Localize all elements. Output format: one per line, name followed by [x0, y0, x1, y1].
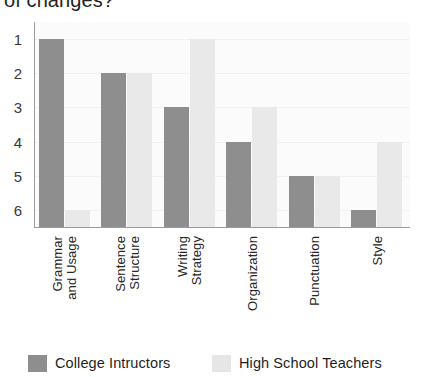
y-axis-tick-3: 3 [6, 100, 30, 115]
y-axis-tick-6: 6 [6, 202, 30, 217]
bar-group [289, 22, 340, 227]
bar[interactable] [39, 39, 64, 227]
bar-group [226, 22, 277, 227]
bar-group [39, 22, 90, 227]
x-axis-label-text: Grammar and Usage [51, 236, 79, 328]
y-axis-tick-1: 1 [6, 32, 30, 47]
y-axis-tick-2: 2 [6, 66, 30, 81]
x-axis-label-text: Punctuation [308, 236, 322, 328]
x-axis-label-text: Organization [246, 236, 260, 328]
x-axis-label-text: Sentence Structure [114, 236, 142, 328]
x-axis-label: Style [332, 236, 421, 328]
x-axis-category-labels: Grammar and UsageSentence StructureWriti… [0, 236, 421, 328]
bar[interactable] [101, 73, 126, 227]
legend-entry[interactable]: College Intructors [28, 352, 170, 374]
bar[interactable] [164, 107, 189, 227]
caption-text: of changes? [0, 0, 421, 13]
bar[interactable] [226, 142, 251, 227]
bar[interactable] [127, 73, 152, 227]
bar[interactable] [252, 107, 277, 227]
legend-swatch-icon [28, 355, 47, 372]
legend-label: College Intructors [55, 355, 170, 371]
bar[interactable] [289, 176, 314, 227]
bar-group [164, 22, 215, 227]
caption-strip: of changes? [0, 0, 421, 13]
bar-chart: 123456 [0, 22, 421, 234]
legend-swatch-icon [212, 355, 231, 372]
x-axis-label-text: Style [371, 236, 385, 328]
bar[interactable] [190, 39, 215, 227]
y-axis-tick-4: 4 [6, 134, 30, 149]
plot-area [34, 22, 410, 228]
x-axis-label-text: Writing Strategy [176, 236, 204, 328]
legend-entry[interactable]: High School Teachers [212, 352, 382, 374]
bar-group [351, 22, 402, 227]
y-axis-tick-5: 5 [6, 168, 30, 183]
bar[interactable] [377, 142, 402, 227]
bar[interactable] [65, 210, 90, 227]
bar-group [101, 22, 152, 227]
y-axis-tick-labels: 123456 [6, 22, 30, 227]
bar[interactable] [315, 176, 340, 227]
bar[interactable] [351, 210, 376, 227]
legend-label: High School Teachers [239, 355, 382, 371]
chart-legend: College IntructorsHigh School Teachers [0, 352, 421, 377]
